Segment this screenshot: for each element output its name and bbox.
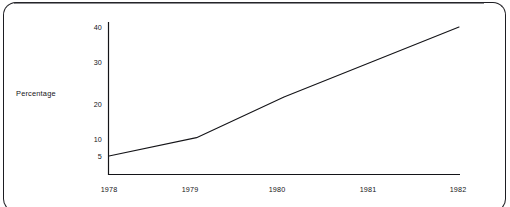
x-tick-label-1979: 1979 [170, 186, 210, 193]
chart-plot-svg [0, 0, 510, 207]
y-tick-label-5: 5 [80, 153, 102, 160]
x-tick-label-1982: 1982 [438, 186, 478, 193]
y-axis-title: Percentage [16, 90, 56, 97]
y-tick-label-30: 30 [80, 59, 102, 66]
x-tick-label-1980: 1980 [257, 186, 297, 193]
y-tick-label-40: 40 [80, 24, 102, 31]
line-chart: Percentage 40 30 20 10 5 1978 1979 1980 … [0, 0, 510, 207]
y-tick-label-10: 10 [80, 136, 102, 143]
y-tick-label-20: 20 [80, 101, 102, 108]
data-series-percentage [109, 27, 459, 156]
x-tick-label-1978: 1978 [89, 186, 129, 193]
x-tick-label-1981: 1981 [348, 186, 388, 193]
figure-root: Percentage 40 30 20 10 5 1978 1979 1980 … [0, 0, 510, 207]
